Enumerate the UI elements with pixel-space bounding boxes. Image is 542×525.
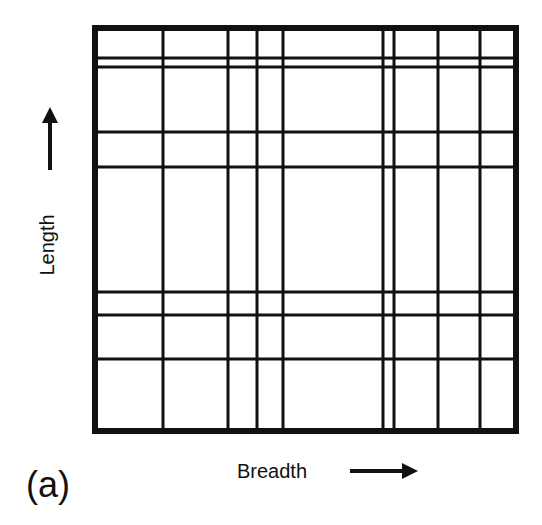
grid-lines bbox=[95, 28, 516, 431]
y-axis-label: Length bbox=[36, 214, 58, 275]
weave-grid-diagram: Length Breadth (a) bbox=[0, 0, 542, 525]
panel-label: (a) bbox=[26, 464, 70, 505]
x-axis-label: Breadth bbox=[237, 460, 307, 482]
grid-frame bbox=[95, 28, 516, 431]
